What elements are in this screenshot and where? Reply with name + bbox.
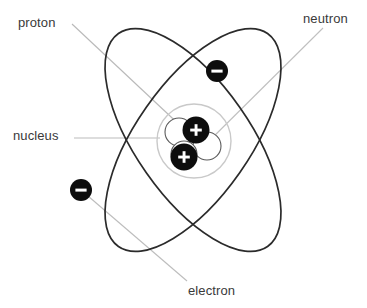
proton-particle (183, 117, 210, 144)
neutron-leader-line (198, 28, 323, 152)
electron-minus-sign (211, 70, 222, 73)
label-nucleus: nucleus (13, 128, 59, 143)
electron-particle-lower-left (70, 179, 92, 201)
label-neutron: neutron (303, 11, 348, 26)
electron-particle-upper-right (206, 60, 228, 82)
proton-plus-vertical (195, 124, 198, 136)
nucleus-group (157, 104, 231, 178)
label-proton: proton (18, 15, 55, 30)
electron-minus-sign (75, 189, 86, 192)
proton-plus-vertical (183, 151, 186, 163)
proton-particle (171, 144, 198, 171)
atom-diagram-canvas (0, 0, 367, 308)
atom-structure-diagram: proton neutron nucleus electron (0, 0, 367, 308)
label-electron: electron (188, 283, 235, 298)
